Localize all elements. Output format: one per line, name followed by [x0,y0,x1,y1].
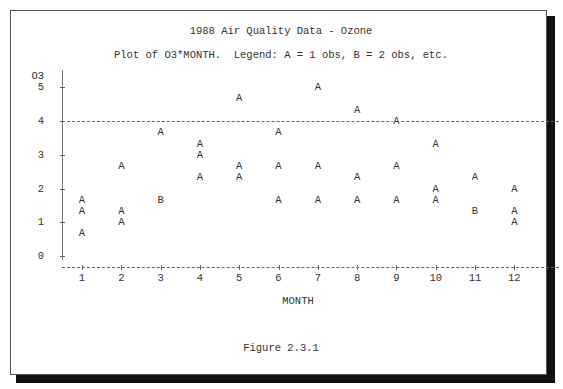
x-tick-mark [396,265,397,270]
y-tick-mark [60,189,65,190]
x-tick-label: 6 [275,273,281,284]
x-tick-mark [475,265,476,270]
x-tick-mark [200,265,201,270]
data-point-symbol: A [393,194,399,205]
data-point-symbol: A [236,172,242,183]
y-tick-mark [60,256,65,257]
data-point-symbol: A [236,161,242,172]
figure-caption: Figure 2.3.1 [243,343,319,354]
x-tick-label: 4 [197,273,203,284]
x-tick-mark [436,265,437,270]
y-tick-mark [60,155,65,156]
x-tick-label: 1 [79,273,85,284]
y-axis-label: O3 [31,71,44,82]
data-point-symbol: A [79,194,85,205]
data-point-symbol: A [354,172,360,183]
x-tick-label: 10 [429,273,442,284]
data-point-symbol: A [433,194,439,205]
x-tick-label: 2 [118,273,124,284]
data-point-symbol: A [472,172,478,183]
x-tick-mark [82,265,83,270]
y-tick-label: 4 [38,116,44,127]
data-point-symbol: A [118,217,124,228]
data-point-symbol: A [79,206,85,217]
x-tick-mark [514,265,515,270]
y-tick-mark [60,222,65,223]
x-tick-label: 3 [157,273,163,284]
y-tick-mark [60,87,65,88]
data-point-symbol: A [511,206,517,217]
x-tick-mark [239,265,240,270]
y-tick-mark [60,121,65,122]
data-point-symbol: A [511,183,517,194]
x-tick-label: 9 [393,273,399,284]
x-tick-label: 5 [236,273,242,284]
x-tick-mark [121,265,122,270]
chart-title: 1988 Air Quality Data - Ozone [190,26,373,37]
data-point-symbol: A [354,105,360,116]
x-tick-mark [161,265,162,270]
data-point-symbol: A [315,82,321,93]
x-tick-mark [318,265,319,270]
data-point-symbol: A [79,228,85,239]
y-tick-label: 0 [38,251,44,262]
data-point-symbol: A [393,161,399,172]
data-point-symbol: A [511,217,517,228]
chart-subtitle: Plot of O3*MONTH. Legend: A = 1 obs, B =… [114,50,448,61]
y-axis-line [62,70,63,260]
data-point-symbol: A [275,127,281,138]
data-point-symbol: A [118,161,124,172]
y-tick-label: 2 [38,183,44,194]
x-tick-label: 12 [508,273,521,284]
data-point-symbol: A [197,172,203,183]
data-point-symbol: A [197,150,203,161]
data-point-symbol: A [236,93,242,104]
y-tick-label: 1 [38,217,44,228]
x-tick-label: 11 [469,273,482,284]
reference-line-y4 [62,121,559,122]
data-point-symbol: A [275,161,281,172]
data-point-symbol: A [275,194,281,205]
y-tick-label: 5 [38,82,44,93]
x-tick-mark [279,265,280,270]
data-point-symbol: A [315,161,321,172]
data-point-symbol: B [157,194,163,205]
data-point-symbol: A [433,138,439,149]
data-point-symbol: A [118,206,124,217]
x-axis-line [62,267,559,268]
x-tick-mark [357,265,358,270]
data-point-symbol: A [354,194,360,205]
data-point-symbol: A [393,116,399,127]
data-point-symbol: B [472,206,478,217]
y-tick-label: 3 [38,150,44,161]
data-point-symbol: A [157,127,163,138]
x-axis-label: MONTH [282,296,314,307]
data-point-symbol: A [197,138,203,149]
x-tick-label: 7 [315,273,321,284]
data-point-symbol: A [315,194,321,205]
x-tick-label: 8 [354,273,360,284]
data-point-symbol: A [433,183,439,194]
